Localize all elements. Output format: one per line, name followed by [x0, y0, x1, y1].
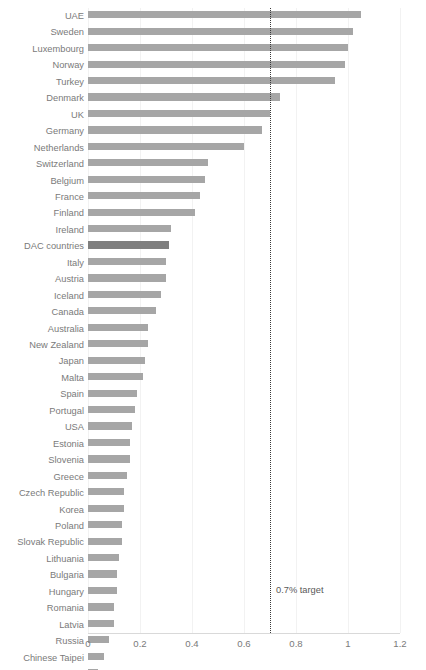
bar-uae: [88, 11, 361, 18]
bar-row: [88, 567, 400, 583]
category-label-slovenia: Slovenia: [0, 452, 84, 468]
bar-netherlands: [88, 143, 244, 150]
bar-korea: [88, 505, 124, 512]
x-tick-label-0.2: 0.2: [133, 638, 146, 649]
category-label-estonia: Estonia: [0, 436, 84, 452]
bar-iceland: [88, 291, 161, 298]
plot-area: [88, 8, 400, 633]
category-label-romania: Romania: [0, 600, 84, 616]
gridline-1.2: [400, 8, 401, 633]
bar-slovak-republic: [88, 538, 122, 545]
bar-new-zealand: [88, 340, 148, 347]
bar-chart: UAESwedenLuxembourgNorwayTurkeyDenmarkUK…: [0, 0, 426, 670]
bar-dac-countries: [88, 241, 169, 248]
category-label-czech-republic: Czech Republic: [0, 485, 84, 501]
bar-row: [88, 337, 400, 353]
bar-row: [88, 41, 400, 57]
bar-poland: [88, 521, 122, 528]
x-tick-label-1: 1: [345, 638, 350, 649]
category-label-sweden: Sweden: [0, 24, 84, 40]
bar-row: [88, 666, 400, 670]
bar-latvia: [88, 620, 114, 627]
category-label-norway: Norway: [0, 57, 84, 73]
category-label-luxembourg: Luxembourg: [0, 41, 84, 57]
category-label-korea: Korea: [0, 502, 84, 518]
bar-hungary: [88, 587, 117, 594]
bar-row: [88, 617, 400, 633]
bar-row: [88, 90, 400, 106]
category-label-belgium: Belgium: [0, 173, 84, 189]
bar-france: [88, 192, 200, 199]
category-label-uae: UAE: [0, 8, 84, 24]
category-label-bulgaria: Bulgaria: [0, 567, 84, 583]
bar-lithuania: [88, 554, 119, 561]
bar-row: [88, 271, 400, 287]
bar-row: [88, 24, 400, 40]
bar-row: [88, 584, 400, 600]
bar-row: [88, 140, 400, 156]
target-annotation-label: 0.7% target: [276, 585, 324, 595]
category-label-poland: Poland: [0, 518, 84, 534]
bar-row: [88, 469, 400, 485]
category-label-new-zealand: New Zealand: [0, 337, 84, 353]
bar-row: [88, 386, 400, 402]
category-label-switzerland: Switzerland: [0, 156, 84, 172]
bar-bulgaria: [88, 570, 117, 577]
bar-switzerland: [88, 159, 208, 166]
category-label-portugal: Portugal: [0, 403, 84, 419]
bar-spain: [88, 390, 137, 397]
category-label-hungary: Hungary: [0, 584, 84, 600]
x-tick-label-0.4: 0.4: [185, 638, 198, 649]
bar-row: [88, 353, 400, 369]
category-label-italy: Italy: [0, 255, 84, 271]
bar-row: [88, 288, 400, 304]
x-axis-ticks: 00.20.40.60.811.2: [0, 638, 426, 658]
category-label-france: France: [0, 189, 84, 205]
target-line: [270, 8, 271, 633]
category-label-slovak-republic: Slovak Republic: [0, 534, 84, 550]
bar-row: [88, 156, 400, 172]
category-label-lithuania: Lithuania: [0, 551, 84, 567]
bar-denmark: [88, 93, 280, 100]
x-axis-line: [88, 633, 400, 634]
bar-estonia: [88, 439, 130, 446]
bar-row: [88, 321, 400, 337]
bar-row: [88, 551, 400, 567]
bar-rows: [88, 8, 400, 633]
bar-row: [88, 123, 400, 139]
bar-row: [88, 8, 400, 24]
bar-romania: [88, 603, 114, 610]
bar-canada: [88, 307, 156, 314]
bar-row: [88, 304, 400, 320]
category-label-iceland: Iceland: [0, 288, 84, 304]
bar-row: [88, 74, 400, 90]
bar-australia: [88, 324, 148, 331]
bar-uk: [88, 110, 270, 117]
category-label-uk: UK: [0, 107, 84, 123]
bar-row: [88, 600, 400, 616]
category-label-netherlands: Netherlands: [0, 140, 84, 156]
bar-row: [88, 370, 400, 386]
bar-row: [88, 485, 400, 501]
category-label-denmark: Denmark: [0, 90, 84, 106]
category-label-austria: Austria: [0, 271, 84, 287]
category-label-greece: Greece: [0, 469, 84, 485]
x-tick-label-0: 0: [85, 638, 90, 649]
bar-czech-republic: [88, 488, 124, 495]
category-label-canada: Canada: [0, 304, 84, 320]
bar-row: [88, 502, 400, 518]
bar-row: [88, 436, 400, 452]
bar-slovenia: [88, 455, 130, 462]
category-label-malta: Malta: [0, 370, 84, 386]
bar-portugal: [88, 406, 135, 413]
bar-row: [88, 173, 400, 189]
bar-row: [88, 238, 400, 254]
bar-belgium: [88, 176, 205, 183]
bar-row: [88, 534, 400, 550]
category-label-japan: Japan: [0, 353, 84, 369]
bar-row: [88, 403, 400, 419]
bar-ireland: [88, 225, 171, 232]
bar-row: [88, 107, 400, 123]
bar-row: [88, 419, 400, 435]
category-label-usa: USA: [0, 419, 84, 435]
